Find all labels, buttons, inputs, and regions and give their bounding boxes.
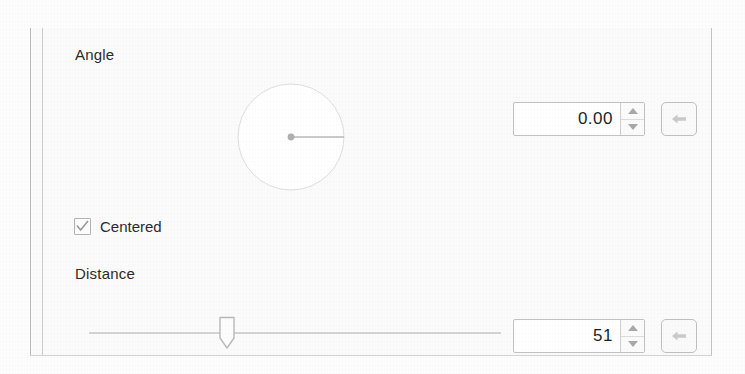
angle-spinbox[interactable]: 0.00 — [513, 102, 645, 136]
angle-spinner-up-button[interactable] — [621, 103, 644, 119]
triangle-down-icon — [628, 341, 638, 347]
panel-content: Angle 0.00 — [43, 28, 711, 356]
panel-border-right — [711, 28, 712, 356]
distance-spinner-down-button[interactable] — [621, 336, 644, 353]
distance-value[interactable]: 51 — [514, 320, 620, 352]
distance-spinbox[interactable]: 51 — [513, 319, 645, 353]
distance-reset-button[interactable] — [661, 319, 697, 353]
distance-slider-track[interactable] — [89, 332, 501, 334]
angle-value[interactable]: 0.00 — [514, 103, 620, 135]
distance-spinner-arrows — [620, 320, 644, 352]
triangle-up-icon — [628, 325, 638, 331]
angle-reset-button[interactable] — [661, 102, 697, 136]
angle-control-row: 0.00 — [513, 102, 697, 136]
angle-spinner-arrows — [620, 103, 644, 135]
motion-blur-settings-panel: Angle 0.00 — [30, 28, 712, 356]
reset-arrow-icon — [669, 328, 689, 344]
angle-dial[interactable] — [237, 83, 345, 191]
angle-spinner-down-button[interactable] — [621, 119, 644, 136]
angle-label: Angle — [75, 46, 114, 63]
distance-spinner-up-button[interactable] — [621, 320, 644, 336]
triangle-down-icon — [628, 124, 638, 130]
centered-checkbox[interactable] — [74, 218, 91, 235]
panel-border-left-outer — [30, 28, 31, 356]
centered-label: Centered — [100, 218, 162, 235]
distance-control-row: 51 — [513, 319, 697, 353]
distance-slider-handle[interactable] — [216, 316, 238, 351]
distance-label: Distance — [75, 265, 135, 282]
distance-slider[interactable] — [77, 308, 507, 360]
triangle-up-icon — [628, 108, 638, 114]
checkmark-icon — [76, 220, 89, 233]
reset-arrow-icon — [669, 111, 689, 127]
centered-checkbox-row[interactable]: Centered — [74, 218, 162, 235]
